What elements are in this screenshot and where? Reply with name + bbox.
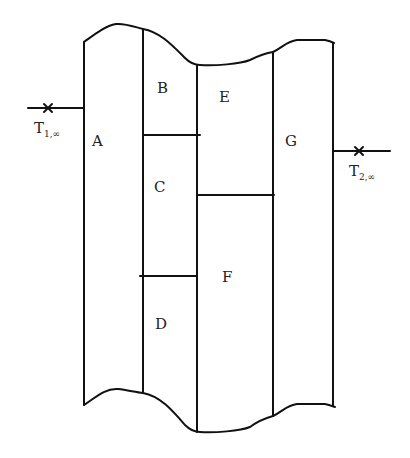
- region-label-C: C: [154, 178, 165, 196]
- left-ambient-temp-label: T1,∞: [34, 119, 60, 139]
- region-label-F: F: [222, 268, 232, 286]
- region-label-G: G: [285, 132, 297, 150]
- composite-wall-diagram: T1,∞ T2,∞ A B C D E F G: [0, 0, 410, 458]
- region-label-A: A: [91, 132, 103, 150]
- bottom-wavy-boundary: [84, 389, 335, 432]
- top-wavy-boundary: [84, 24, 334, 65]
- region-label-E: E: [219, 88, 230, 106]
- region-label-B: B: [157, 79, 168, 97]
- region-label-D: D: [155, 315, 167, 333]
- right-ambient-temp-label: T2,∞: [349, 162, 375, 182]
